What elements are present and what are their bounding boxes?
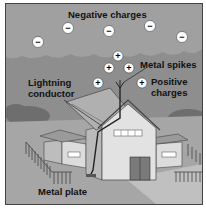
svg-text:−: − bbox=[35, 37, 40, 47]
house-side-wall bbox=[86, 126, 102, 180]
label-positive-charges-2: charges bbox=[151, 88, 187, 98]
label-lightning-conductor-2: conductor bbox=[28, 89, 74, 99]
label-lightning-conductor-1: Lightning bbox=[28, 78, 71, 88]
svg-text:−: − bbox=[106, 26, 111, 36]
svg-text:+: + bbox=[106, 63, 111, 73]
svg-text:+: + bbox=[95, 78, 100, 88]
svg-text:+: + bbox=[126, 63, 131, 73]
metal-plate bbox=[86, 174, 96, 177]
label-metal-spikes: Metal spikes bbox=[140, 60, 197, 70]
diagram-frame: − − − − − + + + + + Negative charges Met… bbox=[5, 3, 203, 205]
svg-text:−: − bbox=[147, 21, 152, 31]
label-negative-charges: Negative charges bbox=[68, 10, 147, 20]
svg-text:−: − bbox=[65, 23, 70, 33]
svg-text:+: + bbox=[115, 51, 120, 61]
svg-text:−: − bbox=[179, 32, 184, 42]
lightning-illustration: − − − − − + + + + + bbox=[6, 4, 202, 204]
svg-text:+: + bbox=[139, 78, 144, 88]
label-positive-charges-1: Positive bbox=[151, 77, 187, 87]
label-metal-plate: Metal plate bbox=[38, 187, 87, 197]
